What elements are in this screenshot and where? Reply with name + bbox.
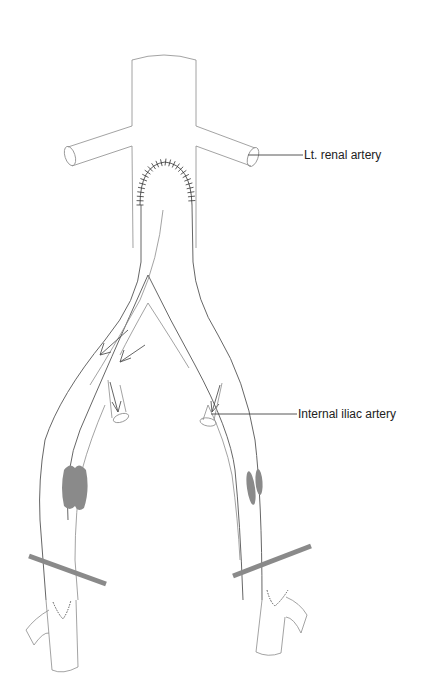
bifurcated-graft: [40, 205, 262, 600]
femoral-bifurcation-left: [256, 597, 307, 655]
label-lt-renal-artery: Lt. renal artery: [248, 148, 381, 162]
plaque-left-2: [255, 469, 264, 495]
aorta: [132, 55, 196, 248]
clamp-right: [29, 556, 106, 584]
label-internal-iliac-artery: Internal iliac artery: [211, 407, 396, 421]
femoral-bifurcation-right: [26, 600, 78, 672]
suture-stitch: [188, 196, 195, 197]
label-text-internal-iliac: Internal iliac artery: [298, 407, 396, 421]
iliac-plaques: [62, 465, 263, 510]
plaque-left-1: [245, 471, 258, 506]
flow-arrow-iliac-right: [110, 382, 121, 412]
suture-stitch: [152, 163, 156, 169]
native-iliac-vessels: [75, 405, 240, 600]
distal-anastomosis-right: [53, 600, 71, 619]
left-renal-artery: [196, 126, 261, 168]
proximal-anastomosis-suture: [137, 159, 196, 205]
suture-stitch: [183, 174, 189, 177]
suture-stitch: [142, 174, 148, 177]
suture-stitch: [165, 159, 166, 166]
vascular-clamps: [29, 546, 311, 584]
right-renal-artery: [62, 126, 132, 167]
suture-stitch: [175, 164, 179, 170]
clamp-left: [233, 546, 311, 576]
plaque-right: [62, 465, 88, 510]
suture-stitch: [137, 192, 144, 193]
suture-stitch: [137, 196, 144, 197]
suture-stitch: [145, 170, 151, 174]
distal-anastomosis-left: [267, 590, 288, 606]
suture-stitch: [187, 192, 194, 193]
aortobifemoral-graft-diagram: Lt. renal artery Internal iliac artery: [0, 0, 428, 692]
label-text-renal: Lt. renal artery: [304, 148, 381, 162]
suture-stitch: [181, 170, 187, 174]
suture-stitch: [172, 161, 175, 167]
